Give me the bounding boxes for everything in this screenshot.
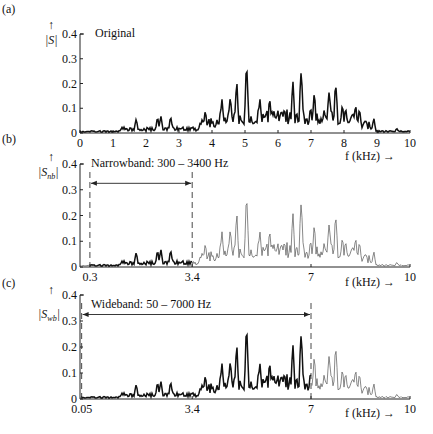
svg-text:10: 10 — [404, 270, 416, 284]
svg-text:0.2: 0.2 — [62, 209, 77, 223]
svg-text:10: 10 — [404, 136, 416, 150]
svg-text:6: 6 — [275, 136, 281, 150]
svg-text:0.3: 0.3 — [62, 314, 77, 328]
svg-text:0.05: 0.05 — [71, 402, 92, 416]
panel-label-b: (b) — [2, 132, 16, 146]
svg-text:0.3: 0.3 — [82, 270, 97, 284]
svg-text:0.4: 0.4 — [62, 157, 77, 171]
y-arrow-icon: ↑ — [48, 283, 54, 297]
x-axis-label-a: f (kHz) → — [345, 149, 395, 163]
svg-text:2: 2 — [143, 136, 149, 150]
x-axis-label-c: f (kHz) → — [345, 406, 395, 420]
svg-text:0.1: 0.1 — [62, 101, 77, 115]
svg-text:0: 0 — [77, 136, 83, 150]
spectrum-figure: (a) ↑ |S| Original 00.10.20.30.401234567… — [0, 0, 433, 434]
svg-text:0.2: 0.2 — [62, 340, 77, 354]
panel-title-a: Original — [95, 26, 136, 40]
svg-text:1: 1 — [110, 136, 116, 150]
svg-text:9: 9 — [374, 136, 380, 150]
svg-text:10: 10 — [404, 402, 416, 416]
spectrum-trace-outside-band — [80, 204, 410, 267]
svg-text:0.1: 0.1 — [62, 366, 77, 380]
svg-text:0.2: 0.2 — [62, 77, 77, 91]
arrowhead-icon — [304, 312, 310, 317]
svg-text:0.1: 0.1 — [62, 234, 77, 248]
x-axis-label-b: f (kHz) → — [345, 275, 395, 289]
svg-text:0.4: 0.4 — [62, 27, 77, 41]
svg-text:4: 4 — [209, 136, 215, 150]
panel-original: (a) ↑ |S| Original 00.10.20.30.401234567… — [2, 2, 416, 163]
svg-text:3.4: 3.4 — [185, 402, 200, 416]
arrowhead-icon — [91, 181, 97, 186]
svg-text:5: 5 — [242, 136, 248, 150]
spectrum-trace-a — [80, 72, 410, 132]
panel-label-a: (a) — [2, 2, 15, 16]
arrowhead-icon — [185, 181, 191, 186]
svg-text:8: 8 — [341, 136, 347, 150]
arrowhead-icon — [83, 312, 89, 317]
svg-text:7: 7 — [308, 402, 314, 416]
svg-text:0: 0 — [71, 260, 77, 274]
panel-title-c: Wideband: 50 – 7000 Hz — [91, 297, 211, 311]
panel-title-b: Narrowband: 300 – 3400 Hz — [91, 156, 228, 170]
svg-text:3.4: 3.4 — [185, 270, 200, 284]
panel-wideband: (c) ↑ |Swb| Wideband: 50 – 7000 Hz 00.10… — [2, 276, 416, 420]
y-arrow-icon: ↑ — [48, 150, 54, 164]
svg-text:7: 7 — [308, 270, 314, 284]
y-arrow-icon: ↑ — [48, 18, 54, 32]
spectrum-trace-c — [82, 335, 311, 398]
panel-label-c: (c) — [2, 276, 15, 290]
svg-text:7: 7 — [308, 136, 314, 150]
y-axis-label-b: |Snb| — [38, 165, 59, 181]
y-axis-label-a: |S| — [45, 33, 58, 47]
svg-text:0.3: 0.3 — [62, 52, 77, 66]
svg-text:0.3: 0.3 — [62, 183, 77, 197]
spectrum-trace-b — [90, 250, 192, 266]
svg-text:0.4: 0.4 — [62, 288, 77, 302]
svg-text:3: 3 — [176, 136, 182, 150]
y-axis-label-c: |Swb| — [38, 307, 60, 323]
